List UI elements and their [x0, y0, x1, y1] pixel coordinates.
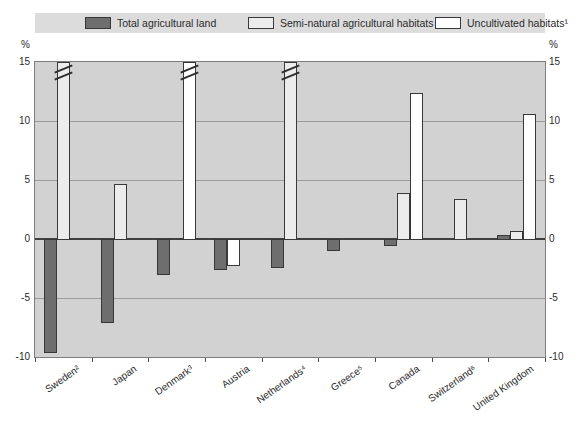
x-axis-tick — [92, 358, 93, 362]
y-tick-label-left: 10 — [0, 115, 30, 126]
x-axis-label: Sweden² — [43, 363, 82, 395]
x-axis-tick — [35, 358, 36, 362]
x-axis-tick — [148, 358, 149, 362]
x-axis-label: Denmark³ — [153, 363, 195, 397]
bar-white-7 — [410, 93, 423, 240]
y-tick-label-left: 5 — [0, 174, 30, 185]
plot-area — [35, 62, 545, 357]
x-axis-label: Switzerland⁶ — [426, 363, 478, 404]
legend-item-uncultivated-habitats: Uncultivated habitats¹ — [435, 13, 568, 33]
bar-dark-9 — [497, 235, 510, 240]
bar-semi-7 — [397, 193, 410, 240]
bar-dark-5 — [271, 239, 284, 268]
x-axis-label: Greece⁵ — [328, 363, 365, 393]
x-axis-tick — [545, 358, 546, 362]
legend-swatch-dark — [85, 17, 111, 29]
bar-semi-5 — [284, 62, 297, 240]
y-tick-label-left: -5 — [0, 292, 30, 303]
legend-label: Total agricultural land — [117, 17, 216, 29]
legend-swatch-semi — [248, 17, 274, 29]
legend-label: Uncultivated habitats¹ — [467, 17, 568, 29]
y-tick-label-right: 5 — [549, 174, 583, 185]
axis-break-icon — [281, 66, 300, 78]
x-axis-label: Austria — [220, 363, 252, 390]
bar-chart-figure: Total agricultural land Semi-natural agr… — [0, 0, 587, 431]
legend-label: Semi-natural agricultural habitats — [280, 17, 434, 29]
y-tick-label-right: 15 — [549, 56, 583, 67]
x-axis-tick — [318, 358, 319, 362]
legend-swatch-white — [435, 17, 461, 29]
x-axis-label: Canada — [387, 363, 422, 392]
x-axis-tick — [262, 358, 263, 362]
legend: Total agricultural land Semi-natural agr… — [35, 13, 545, 33]
y-axis-unit-right: % — [549, 39, 583, 50]
y-tick-label-right: 0 — [549, 233, 583, 244]
axis-break-icon — [54, 66, 73, 78]
x-axis-tick — [375, 358, 376, 362]
bar-white-4 — [227, 239, 240, 266]
bar-dark-4 — [214, 239, 227, 270]
x-axis-tick — [205, 358, 206, 362]
y-axis-unit-left: % — [0, 39, 30, 50]
x-axis-label: Netherlands⁴ — [254, 363, 308, 405]
y-tick-label-left: 0 — [0, 233, 30, 244]
y-tick-label-right: 10 — [549, 115, 583, 126]
axis-break-icon — [180, 66, 199, 78]
x-axis-tick — [488, 358, 489, 362]
legend-item-total-agricultural-land: Total agricultural land — [85, 13, 216, 33]
bar-dark-3 — [157, 239, 170, 275]
x-axis-label: Japan — [110, 363, 139, 388]
y-tick-label-right: -5 — [549, 292, 583, 303]
y-tick-label-left: 15 — [0, 56, 30, 67]
y-tick-label-left: -10 — [0, 351, 30, 362]
bar-semi-1 — [57, 62, 70, 240]
bar-semi-9 — [510, 231, 523, 240]
bar-dark-6 — [327, 239, 340, 251]
x-axis-label: United Kingdom — [470, 363, 535, 413]
bar-semi-2 — [114, 184, 127, 240]
bar-dark-2 — [101, 239, 114, 323]
x-axis-tick — [432, 358, 433, 362]
bar-dark-7 — [384, 239, 397, 246]
legend-item-semi-natural-habitats: Semi-natural agricultural habitats — [248, 13, 434, 33]
bar-dark-1 — [44, 239, 57, 353]
bar-semi-8 — [454, 199, 467, 240]
bar-white-3 — [183, 62, 196, 240]
y-tick-label-right: -10 — [549, 351, 583, 362]
bar-white-9 — [523, 114, 536, 240]
